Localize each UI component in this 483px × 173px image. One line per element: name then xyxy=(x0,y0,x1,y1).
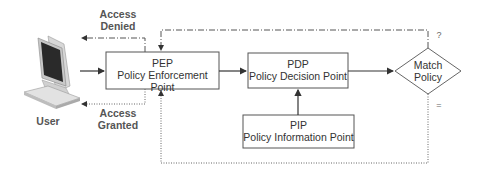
match-policy-label: Match Policy xyxy=(403,59,453,83)
pep-abbr: PEP xyxy=(106,57,219,69)
access-denied-line2: Denied xyxy=(88,20,148,32)
pep-name: Policy Enforcement Point xyxy=(106,69,219,93)
user-label: User xyxy=(28,115,68,127)
match-symbol: = xyxy=(434,99,444,111)
pip-label: PIP Policy Information Point xyxy=(243,119,354,143)
diagram-canvas xyxy=(0,0,483,173)
access-denied-arrow xyxy=(82,38,145,52)
access-granted-label: Access Granted xyxy=(88,107,148,131)
pdp-abbr: PDP xyxy=(248,58,348,70)
pdp-name: Policy Decision Point xyxy=(248,70,348,82)
match-line1: Match xyxy=(403,59,453,71)
no-match-feedback-line xyxy=(161,30,428,50)
pep-label: PEP Policy Enforcement Point xyxy=(106,57,219,93)
no-match-symbol: ? xyxy=(434,29,444,41)
match-line2: Policy xyxy=(403,71,453,83)
access-granted-line1: Access xyxy=(88,107,148,119)
pip-abbr: PIP xyxy=(243,119,354,131)
pip-name: Policy Information Point xyxy=(243,131,354,143)
access-denied-label: Access Denied xyxy=(88,8,148,32)
access-granted-line2: Granted xyxy=(88,119,148,131)
pdp-label: PDP Policy Decision Point xyxy=(248,58,348,82)
computer-terminal-icon xyxy=(24,36,80,109)
access-denied-line1: Access xyxy=(88,8,148,20)
